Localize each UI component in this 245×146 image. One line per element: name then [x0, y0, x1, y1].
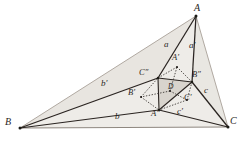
vertex-dot-Bpp	[191, 81, 193, 83]
vertex-label-A-dprime: A″	[151, 109, 160, 118]
vertex-dot-Ap	[176, 66, 178, 68]
side-label-a-prime: a′	[189, 41, 195, 50]
side-label-c: c	[204, 86, 208, 95]
vertex-label-A-prime: A′	[172, 53, 179, 62]
geometry-diagram	[0, 0, 245, 146]
vertex-label-C-prime: C′	[184, 93, 192, 102]
vertex-dot-Bp	[140, 96, 142, 98]
side-label-b-prime: b′	[101, 79, 107, 88]
vertex-dot-B	[19, 127, 22, 130]
side-label-b: b	[115, 112, 120, 121]
vertex-label-C-dprime: C″	[139, 68, 148, 77]
vertex-label-A: A	[194, 3, 200, 13]
side-label-a: a	[164, 40, 169, 49]
vertex-label-B-prime: B′	[128, 88, 135, 97]
vertex-dot-A	[195, 15, 198, 18]
vertex-label-B-dprime: B″	[192, 70, 201, 79]
vertex-label-B: B	[5, 117, 11, 127]
side-label-c-prime: c′	[177, 107, 183, 116]
vertex-label-C: C	[230, 116, 237, 126]
vertex-label-D: D	[168, 83, 173, 91]
vertex-dot-Cpp	[157, 77, 159, 79]
